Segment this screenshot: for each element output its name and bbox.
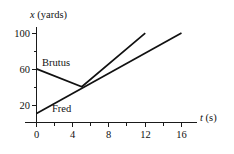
y-tick-label-20: 20 xyxy=(6,101,30,112)
series-label-brutus: Brutus xyxy=(42,58,70,69)
x-tick-label-12: 12 xyxy=(136,130,156,141)
x-axis-group xyxy=(25,123,197,128)
x-tick-label-8: 8 xyxy=(99,130,119,141)
y-tick-label-60: 60 xyxy=(6,65,30,76)
series-line-fred xyxy=(37,33,182,113)
y-axis-group xyxy=(32,27,37,123)
y-axis-unit: (yards) xyxy=(37,9,67,20)
series-label-fred: Fred xyxy=(52,104,71,115)
y-axis-title: x (yards) xyxy=(30,10,67,21)
y-tick-label-100: 100 xyxy=(6,29,30,40)
data-series-group xyxy=(37,33,182,113)
x-axis-title: t (s) xyxy=(200,113,217,124)
position-time-chart: 100 60 20 0 4 8 12 16 x (yards) t (s) Br… xyxy=(0,0,234,154)
x-tick-label-4: 4 xyxy=(63,130,83,141)
x-tick-label-0: 0 xyxy=(27,130,47,141)
x-axis-unit: (s) xyxy=(206,112,217,123)
x-tick-label-16: 16 xyxy=(172,130,192,141)
